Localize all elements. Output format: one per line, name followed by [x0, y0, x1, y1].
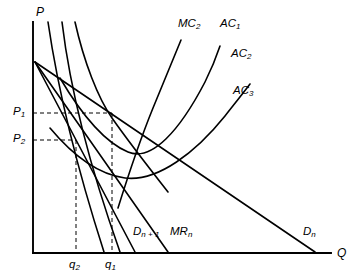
curve-label-mrn-base: MR — [170, 225, 188, 237]
quantity-tick-q2: q2 — [69, 259, 80, 271]
curve-label-mrn: MRn — [170, 226, 192, 238]
quantity-tick-q2-sub: 2 — [75, 263, 79, 272]
curve-marginal-revenue-n — [35, 62, 168, 252]
curve-label-mrn-sub: n — [188, 230, 192, 239]
economics-diagram: P Q MC2 AC1 AC2 AC3 Dn + 1 MRn Dn P1 P2 … — [0, 0, 357, 279]
price-tick-p1-sub: 1 — [21, 110, 25, 119]
curve-label-ac2: AC2 — [231, 48, 251, 60]
curve-label-ac2-base: AC — [231, 47, 247, 59]
axis-label-quantity: Q — [337, 247, 346, 259]
quantity-tick-q1: q1 — [105, 259, 116, 271]
curve-label-dn-plus-1-sub: n + 1 — [141, 230, 159, 239]
curve-label-mc2-sub: 2 — [196, 22, 200, 31]
curve-label-ac1-base: AC — [220, 17, 236, 29]
curve-label-mc2: MC2 — [178, 18, 200, 30]
axis-label-price: P — [36, 6, 44, 18]
curve-label-dn-sub: n — [311, 230, 315, 239]
curve-label-mc2-base: MC — [178, 17, 196, 29]
curve-label-ac1: AC1 — [220, 18, 240, 30]
curve-label-ac3: AC3 — [233, 85, 253, 97]
curve-demand-n-plus-1 — [35, 62, 135, 252]
curve-label-dn: Dn — [303, 226, 316, 238]
quantity-tick-q1-sub: 1 — [111, 263, 115, 272]
price-tick-p1: P1 — [13, 106, 25, 118]
curve-label-ac3-sub: 3 — [249, 89, 253, 98]
curve-label-dn-plus-1: Dn + 1 — [133, 226, 159, 238]
price-tick-p2-base: P — [13, 132, 21, 144]
curve-label-ac3-base: AC — [233, 84, 249, 96]
curve-label-ac1-sub: 1 — [236, 22, 240, 31]
price-tick-p1-base: P — [13, 105, 21, 117]
price-tick-p2-sub: 2 — [21, 137, 25, 146]
curve-demand-n — [35, 62, 315, 252]
price-tick-p2: P2 — [13, 133, 25, 145]
curve-label-ac2-sub: 2 — [247, 52, 251, 61]
curve-average-cost-3 — [50, 84, 250, 178]
